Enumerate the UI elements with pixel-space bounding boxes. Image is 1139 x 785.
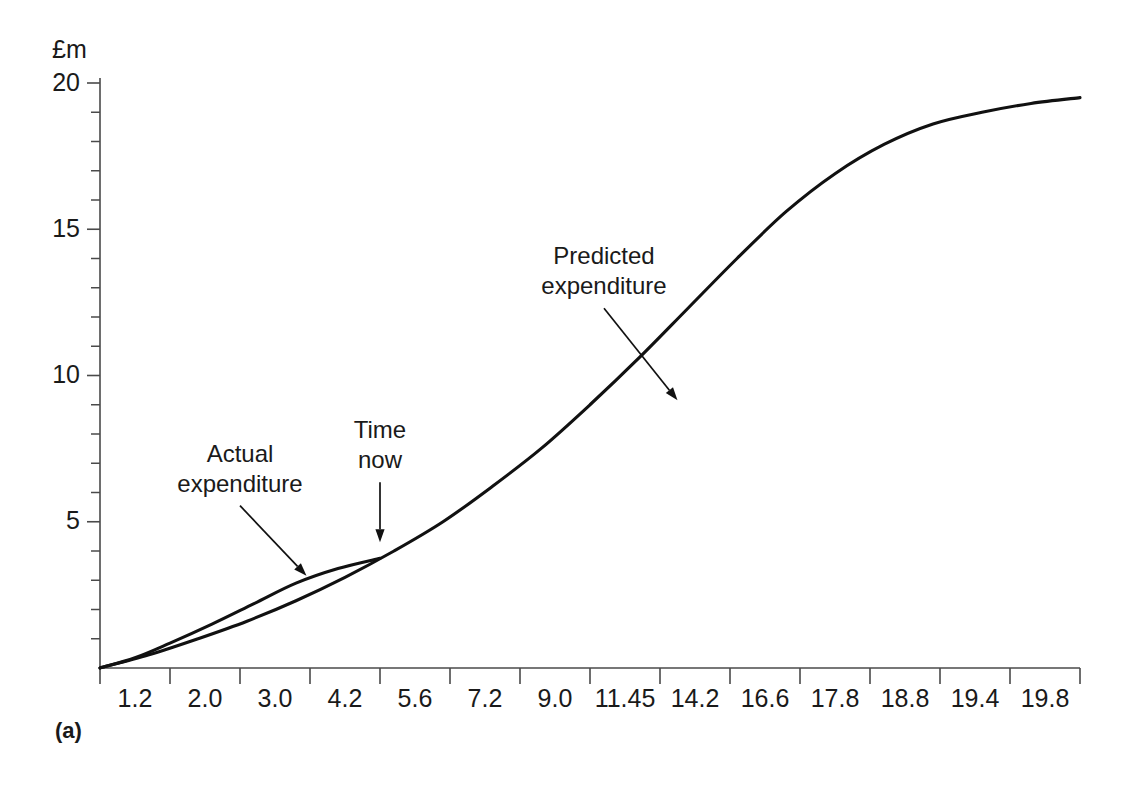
x-axis-tick-label: 11.45 [595, 684, 656, 712]
y-axis-tick-label: 5 [66, 506, 80, 534]
annotation-label: Actual [207, 440, 274, 467]
annotation-arrow-head [375, 529, 384, 542]
x-axis-tick-label: 14.2 [671, 684, 720, 712]
x-axis-tick-label: 4.2 [328, 684, 363, 712]
x-axis-tick-label: 19.8 [1021, 684, 1070, 712]
x-axis-tick-label: 9.0 [538, 684, 573, 712]
annotation-label: expenditure [177, 470, 302, 497]
x-axis-tick-label: 1.2 [118, 684, 153, 712]
annotation-label: now [358, 446, 403, 473]
annotation-arrow-head [666, 387, 678, 400]
x-axis-ticks [100, 668, 1080, 684]
annotation-label: Predicted [553, 242, 654, 269]
annotation-actual-expenditure: Actualexpenditure [177, 440, 306, 576]
y-axis-ticks [87, 83, 100, 639]
y-axis-tick-labels: 5101520 [52, 68, 80, 535]
annotation-label: expenditure [541, 272, 666, 299]
annotation-label: Time [354, 416, 406, 443]
x-axis-tick-label: 16.6 [741, 684, 790, 712]
y-axis-tick-label: 20 [52, 68, 80, 96]
x-axis-tick-label: 2.0 [188, 684, 223, 712]
predicted-expenditure-curve [100, 98, 1080, 668]
actual-expenditure-curve [100, 558, 380, 668]
figure-panel-a: £m 5101520 1.22.03.04.25.67.29.011.4514.… [0, 0, 1139, 785]
x-axis-tick-label: 18.8 [881, 684, 930, 712]
annotation-arrow-shaft [240, 506, 298, 567]
x-axis-tick-labels: 1.22.03.04.25.67.29.011.4514.216.617.818… [118, 684, 1070, 712]
x-axis-tick-label: 19.4 [951, 684, 1000, 712]
x-axis-tick-label: 5.6 [398, 684, 433, 712]
x-axis-tick-label: 3.0 [258, 684, 293, 712]
y-axis-unit-label: £m [52, 35, 87, 63]
expenditure-s-curve-chart: £m 5101520 1.22.03.04.25.67.29.011.4514.… [0, 0, 1139, 785]
y-axis-tick-label: 15 [52, 214, 80, 242]
annotation-predicted-expenditure: Predictedexpenditure [541, 242, 677, 400]
annotation-arrow-shaft [604, 308, 669, 390]
x-axis-tick-label: 7.2 [468, 684, 503, 712]
y-axis-tick-label: 10 [52, 360, 80, 388]
chart-annotations: ActualexpenditureTimenowPredictedexpendi… [177, 242, 677, 576]
panel-label: (a) [55, 718, 82, 743]
annotation-time-now: Timenow [354, 416, 406, 542]
x-axis-tick-label: 17.8 [811, 684, 860, 712]
